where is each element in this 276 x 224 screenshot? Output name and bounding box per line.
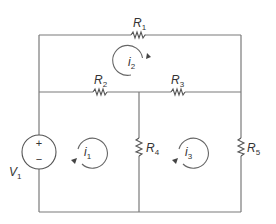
resistor-r3: R3 <box>171 73 185 95</box>
clockwise-arrow-icon <box>78 138 107 168</box>
mesh-current-i3-label: i3 <box>185 145 193 161</box>
minus-sign: − <box>36 153 42 165</box>
plus-sign: + <box>36 137 42 149</box>
resistor-r3-symbol <box>171 89 185 95</box>
resistor-r5-label: R5 <box>247 141 261 157</box>
resistor-r1-label: R1 <box>133 16 147 32</box>
resistor-r4-symbol <box>136 138 142 156</box>
resistor-r2-symbol <box>93 89 107 95</box>
resistor-r3-label: R3 <box>171 73 185 89</box>
mesh-current-i1: i1 <box>71 138 107 168</box>
arrowhead-icon <box>71 158 77 164</box>
resistor-r2-label: R2 <box>94 73 108 89</box>
clockwise-arrow-icon <box>179 138 208 168</box>
resistor-r4: R4 <box>136 138 160 157</box>
voltage-source-v1: + − V1 <box>9 135 56 181</box>
wires <box>39 35 241 212</box>
resistor-r5: R5 <box>238 138 261 157</box>
voltage-source-label: V1 <box>9 165 22 181</box>
resistor-r1: R1 <box>131 16 147 38</box>
mesh-current-i1-label: i1 <box>84 145 92 161</box>
resistor-r1-symbol <box>131 32 146 38</box>
mesh-current-i2-label: i2 <box>128 55 136 71</box>
mesh-current-i2: i2 <box>113 45 151 75</box>
resistor-r5-symbol <box>238 138 244 156</box>
resistor-r2: R2 <box>93 73 108 95</box>
arrowhead-icon <box>172 158 178 164</box>
circuit-diagram: R1 R2 R3 R4 R5 + − V1 i2 i1 <box>0 0 276 224</box>
arrowhead-icon <box>146 53 151 59</box>
resistor-r4-label: R4 <box>146 141 160 157</box>
mesh-current-i3: i3 <box>172 138 208 168</box>
